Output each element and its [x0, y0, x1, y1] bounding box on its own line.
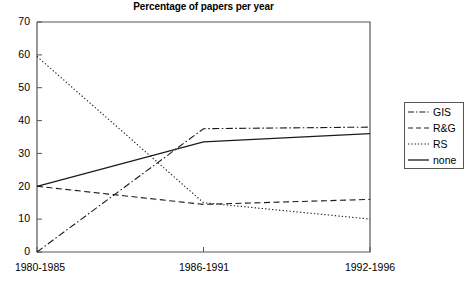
legend-swatch-rg: [407, 122, 430, 134]
x-axis-ticks: [37, 247, 370, 252]
legend-label-rg: R&G: [433, 122, 456, 134]
legend-swatch-rs: [407, 138, 430, 150]
legend-swatch-gis: [407, 106, 430, 118]
series-line-rs: [37, 57, 370, 220]
y-tick-label-20: 20: [4, 181, 30, 192]
legend-label-rs: RS: [433, 138, 448, 150]
legend-item-gis: GIS: [405, 104, 465, 119]
chart-figure: Percentage of papers per year: [0, 0, 468, 283]
series-line-rg: [37, 186, 370, 204]
y-tick-label-10: 10: [4, 213, 30, 224]
series-line-none: [37, 134, 370, 187]
y-tick-label-60: 60: [4, 49, 30, 60]
y-tick-label-0: 0: [4, 246, 30, 257]
legend-label-none: none: [433, 154, 456, 166]
y-tick-label-40: 40: [4, 115, 30, 126]
legend-swatch-none: [407, 154, 430, 166]
legend-item-rs: RS: [405, 136, 465, 151]
x-tick-label-1992-1996: 1992-1996: [330, 261, 410, 273]
y-tick-label-30: 30: [4, 148, 30, 159]
x-tick-label-1986-1991: 1986-1991: [164, 261, 244, 273]
y-tick-label-70: 70: [4, 16, 30, 27]
series-line-gis: [37, 127, 370, 252]
legend-item-rg: R&G: [405, 120, 465, 135]
plot-area: [0, 0, 468, 283]
axis-frame: [37, 22, 370, 252]
chart-legend: GIS R&G RS none: [404, 102, 464, 169]
x-tick-label-1980-1985: 1980-1985: [0, 261, 80, 273]
legend-item-none: none: [405, 152, 465, 167]
y-tick-label-50: 50: [4, 82, 30, 93]
legend-label-gis: GIS: [433, 106, 451, 118]
